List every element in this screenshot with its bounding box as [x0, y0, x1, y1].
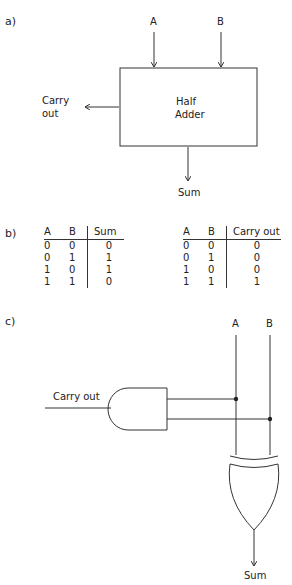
table-row: 000 — [44, 240, 124, 253]
table-row: 101 — [44, 264, 124, 276]
table-row: 010 — [183, 252, 281, 264]
table-row: 111 — [183, 276, 281, 288]
carry-label-2: out — [42, 108, 58, 120]
block-label-half: Half — [176, 96, 196, 108]
junction-b — [268, 417, 272, 421]
col-a: A — [44, 226, 69, 240]
carry-truth-table: A B Carry out 000 010 100 111 — [183, 226, 281, 288]
table-row: 110 — [44, 276, 124, 288]
table-row: 000 — [183, 240, 281, 253]
table-row: 011 — [44, 252, 124, 264]
diagram-lines — [0, 0, 292, 585]
col-sum: Sum — [88, 226, 125, 240]
carry-label-1: Carry — [42, 95, 69, 107]
xor-gate — [229, 464, 278, 530]
sum-label: Sum — [178, 187, 200, 199]
circuit-sum-label: Sum — [244, 570, 266, 582]
junction-a — [234, 397, 238, 401]
table-row: 100 — [183, 264, 281, 276]
input-b-label: B — [217, 16, 224, 28]
circuit-carry-label: Carry out — [53, 391, 100, 403]
col-a: A — [183, 226, 208, 240]
col-carry-out: Carry out — [227, 226, 282, 240]
circuit-input-b-label: B — [266, 318, 273, 330]
col-b: B — [208, 226, 227, 240]
and-gate — [108, 388, 167, 430]
col-b: B — [69, 226, 88, 240]
block-label-adder: Adder — [175, 109, 205, 121]
input-a-label: A — [150, 16, 157, 28]
circuit-input-a-label: A — [232, 318, 239, 330]
sum-truth-table: A B Sum 000 011 101 110 — [44, 226, 124, 288]
xor-back-curve — [230, 456, 278, 460]
